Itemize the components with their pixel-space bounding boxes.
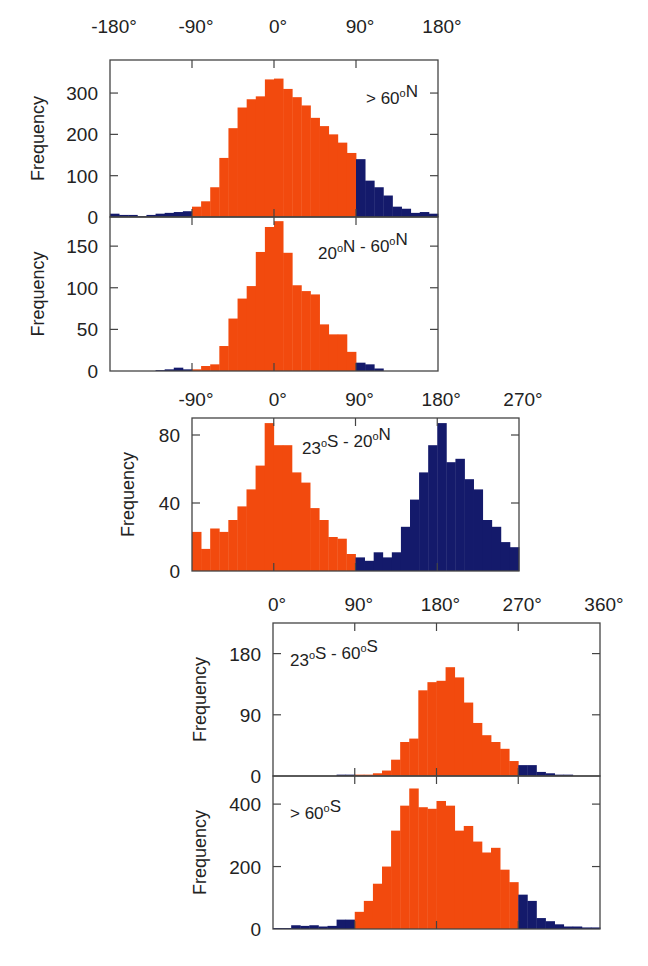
histogram-bar bbox=[329, 134, 339, 217]
histogram-bar bbox=[228, 520, 237, 571]
histogram-bar bbox=[265, 423, 274, 571]
histogram-bar bbox=[482, 853, 491, 930]
histogram-panel-2: 050100150Frequency20oN - 60oN bbox=[28, 217, 438, 382]
y-tick-label: 150 bbox=[66, 236, 98, 257]
x-axis-label: 0° bbox=[269, 389, 287, 410]
histogram-bar bbox=[301, 105, 311, 217]
y-tick-label: 200 bbox=[229, 857, 261, 878]
histogram-bar bbox=[274, 79, 284, 217]
histogram-panel-1: 0100200300-180°-90°0°90°180°Frequency> 6… bbox=[28, 16, 462, 228]
histogram-bar bbox=[320, 126, 330, 217]
histogram-bar bbox=[219, 346, 229, 371]
histogram-bar bbox=[400, 742, 409, 776]
histogram-bar bbox=[337, 920, 346, 929]
histogram-bar bbox=[401, 527, 410, 571]
histogram-bar bbox=[509, 761, 518, 776]
histogram-bar bbox=[391, 760, 400, 776]
histogram-bar bbox=[347, 352, 357, 371]
histogram-bar bbox=[256, 252, 266, 371]
y-axis-title: Frequency bbox=[190, 657, 210, 742]
y-axis-title: Frequency bbox=[28, 96, 48, 181]
histogram-bar bbox=[465, 479, 474, 571]
histogram-bar bbox=[355, 912, 364, 929]
x-axis-label: 0° bbox=[269, 16, 287, 37]
histogram-bar bbox=[210, 529, 219, 572]
histogram-bar bbox=[491, 742, 500, 776]
x-axis-label: 180° bbox=[422, 389, 461, 410]
histogram-bar bbox=[500, 749, 509, 776]
histogram-figure: 0100200300-180°-90°0°90°180°Frequency> 6… bbox=[0, 0, 648, 966]
histogram-bar bbox=[492, 527, 501, 571]
histogram-bar bbox=[274, 221, 284, 371]
x-axis-label: 360° bbox=[584, 594, 623, 615]
histogram-bar bbox=[419, 472, 428, 571]
histogram-bar bbox=[410, 500, 419, 571]
x-axis-label: 0° bbox=[268, 594, 286, 615]
x-axis-label: 270° bbox=[503, 389, 542, 410]
histogram-bar bbox=[392, 552, 401, 571]
histogram-bar bbox=[346, 920, 355, 929]
histogram-bar bbox=[365, 364, 375, 371]
region-annotation: 23oS - 20oN bbox=[302, 425, 391, 458]
histogram-bar bbox=[420, 212, 430, 217]
y-tick-label: 400 bbox=[229, 794, 261, 815]
histogram-bar bbox=[383, 196, 393, 217]
histogram-bar bbox=[337, 539, 346, 571]
y-tick-label: 90 bbox=[240, 705, 261, 726]
x-axis-label: 90° bbox=[346, 16, 375, 37]
y-tick-label: 180 bbox=[229, 644, 261, 665]
histogram-bar bbox=[464, 826, 473, 929]
histogram-bar bbox=[455, 459, 464, 571]
histogram-bar bbox=[238, 299, 248, 371]
y-tick-label: 50 bbox=[77, 319, 98, 340]
histogram-bar bbox=[437, 423, 446, 571]
histogram-bar bbox=[382, 771, 391, 776]
histogram-bar bbox=[192, 207, 202, 217]
y-tick-label: 0 bbox=[169, 561, 180, 582]
histogram-bar bbox=[301, 291, 311, 371]
histogram-bar bbox=[329, 334, 339, 371]
histogram-bar bbox=[228, 128, 238, 217]
x-axis-label: -90° bbox=[178, 16, 213, 37]
histogram-bar bbox=[446, 667, 455, 776]
histogram-bar bbox=[192, 532, 201, 571]
histogram-bar bbox=[247, 99, 257, 217]
y-axis-title: Frequency bbox=[28, 251, 48, 336]
histogram-bar bbox=[428, 445, 437, 571]
histogram-bar bbox=[437, 681, 446, 776]
histogram-bars bbox=[337, 667, 574, 776]
histogram-bar bbox=[501, 542, 510, 571]
histogram-bar bbox=[292, 97, 302, 217]
region-annotation: 23oS - 60oS bbox=[290, 637, 378, 670]
histogram-bar bbox=[247, 286, 257, 371]
histogram-bar bbox=[483, 520, 492, 571]
histogram-bar bbox=[427, 809, 436, 929]
histogram-bar bbox=[402, 209, 412, 217]
histogram-bar bbox=[455, 831, 464, 929]
histogram-bar bbox=[427, 682, 436, 776]
histogram-bar bbox=[383, 557, 392, 571]
histogram-bar bbox=[409, 788, 418, 929]
histogram-bar bbox=[219, 158, 229, 217]
histogram-bar bbox=[320, 324, 330, 371]
histogram-bar bbox=[373, 884, 382, 929]
y-tick-label: 0 bbox=[87, 361, 98, 382]
histogram-panel-4: 0901800°90°180°270°360°Frequency23oS - 6… bbox=[190, 594, 624, 787]
histogram-bar bbox=[338, 143, 348, 217]
histogram-bar bbox=[210, 187, 220, 217]
histogram-bar bbox=[418, 690, 427, 776]
histogram-bar bbox=[391, 831, 400, 929]
histogram-bar bbox=[509, 882, 518, 929]
y-tick-label: 100 bbox=[66, 166, 98, 187]
histogram-bar bbox=[392, 207, 402, 217]
histogram-bar bbox=[292, 285, 302, 371]
histogram-bar bbox=[374, 187, 384, 217]
x-axis-label: 90° bbox=[344, 594, 373, 615]
histogram-bar bbox=[183, 211, 193, 217]
histogram-bar bbox=[518, 765, 527, 776]
histogram-bar bbox=[491, 848, 500, 929]
histogram-bar bbox=[536, 918, 545, 929]
y-tick-label: 100 bbox=[66, 278, 98, 299]
histogram-bar bbox=[310, 294, 320, 371]
histogram-bar bbox=[283, 445, 292, 571]
